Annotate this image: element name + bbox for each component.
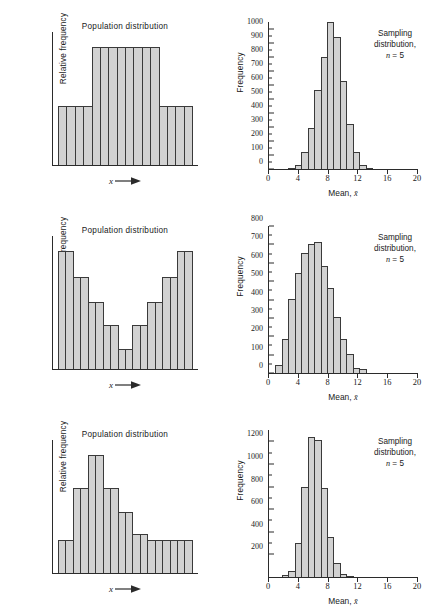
figure-row-1: Population distribution Relative frequen…: [0, 0, 441, 204]
x-tick-label: 8: [326, 374, 330, 387]
y-tick-label: 100: [251, 143, 268, 152]
x-tick-label: 20: [413, 374, 421, 387]
y-tick-mark: [269, 57, 274, 58]
right-arrow-icon: [115, 381, 141, 389]
y-tick-minor: [269, 290, 272, 291]
y-tick-mark: [269, 113, 274, 114]
population-panel-2: Population distribution Relative frequen…: [0, 204, 210, 408]
y-tick-label: 500: [251, 87, 268, 96]
y-tick-minor: [269, 235, 272, 236]
y-tick-minor: [269, 520, 272, 521]
annotation-line-2: distribution,: [362, 39, 428, 50]
y-tick-mark: [269, 155, 274, 156]
x-bar-symbol: x̄: [354, 393, 358, 402]
y-tick-mark: [269, 463, 274, 464]
y-tick-mark: [269, 262, 274, 263]
y-tick-mark: [269, 317, 274, 318]
sampling-panel-1: Frequency 0 100 200 300 400 500 600 700 …: [210, 0, 441, 204]
sampling-x-axis-label: Mean, x̄: [268, 392, 418, 402]
y-tick-label: 1000: [247, 451, 268, 460]
x-tick-label: 16: [383, 170, 391, 183]
population-x-symbol: x: [109, 584, 113, 594]
y-tick-label: 900: [251, 31, 268, 40]
y-tick-mark: [269, 441, 274, 442]
figure-row-3: Population distribution Relative frequen…: [0, 408, 441, 612]
sampling-x-axis: [268, 169, 418, 170]
y-tick-label: 200: [251, 129, 268, 138]
population-bars: [58, 455, 192, 573]
y-tick-label: 1200: [247, 429, 268, 438]
y-tick-label: 0: [259, 361, 268, 370]
population-y-axis: [52, 440, 53, 574]
sampling-x-axis-label: Mean, x̄: [268, 596, 418, 606]
y-tick-mark: [269, 336, 274, 337]
y-tick-mark: [269, 141, 274, 142]
sampling-x-axis: [268, 577, 418, 578]
annotation-line-1: Sampling: [362, 232, 428, 243]
y-tick-label: 300: [251, 305, 268, 314]
y-tick-label: 100: [251, 342, 268, 351]
population-x-symbol: x: [109, 176, 113, 186]
x-tick-label: 12: [353, 170, 361, 183]
annotation-line-3: n = 5: [362, 50, 428, 61]
sampling-panel-2: Frequency 0 100 200 300 400 500 600 700 …: [210, 204, 441, 408]
right-arrow-icon: [115, 585, 141, 593]
x-tick-label: 20: [413, 170, 421, 183]
y-tick-minor: [269, 543, 272, 544]
y-tick-minor: [269, 308, 272, 309]
y-tick-mark: [269, 281, 274, 282]
x-tick-label: 16: [383, 374, 391, 387]
annotation-line-3: n = 5: [362, 458, 428, 469]
sampling-chart-1: Frequency 0 100 200 300 400 500 600 700 …: [224, 16, 430, 194]
right-arrow-icon: [115, 177, 141, 185]
y-tick-label: 400: [251, 287, 268, 296]
population-bars: [58, 251, 192, 369]
y-tick-label: 0: [259, 157, 268, 166]
y-tick-mark: [269, 354, 274, 355]
population-x-axis-label: x: [52, 176, 198, 186]
sample-size-symbol: n: [386, 255, 390, 264]
y-tick-label: 400: [251, 519, 268, 528]
y-tick-label: 500: [251, 269, 268, 278]
y-tick-mark: [269, 226, 274, 227]
y-tick-mark: [269, 85, 274, 86]
population-title: Population distribution: [52, 430, 198, 439]
y-tick-minor: [269, 345, 272, 346]
sampling-annotation: Sampling distribution, n = 5: [362, 232, 428, 265]
y-tick-label: 600: [251, 250, 268, 259]
x-bar-symbol: x̄: [354, 597, 358, 606]
population-chart-3: Population distribution Relative frequen…: [52, 432, 198, 582]
y-tick-mark: [269, 127, 274, 128]
sampling-annotation: Sampling distribution, n = 5: [362, 436, 428, 469]
y-tick-label: 700: [251, 232, 268, 241]
y-tick-mark: [269, 43, 274, 44]
y-tick-minor: [269, 64, 272, 65]
sample-size-symbol: n: [386, 51, 390, 60]
sampling-y-axis-label: Frequency: [236, 237, 245, 317]
sampling-x-axis-label: Mean, x̄: [268, 188, 418, 198]
y-tick-label: 200: [251, 324, 268, 333]
population-panel-1: Population distribution Relative frequen…: [0, 0, 210, 204]
annotation-line-2: distribution,: [362, 243, 428, 254]
y-tick-label: 300: [251, 115, 268, 124]
annotation-line-1: Sampling: [362, 28, 428, 39]
x-tick-label: 4: [296, 578, 300, 591]
y-tick-label: 800: [251, 45, 268, 54]
x-tick-label: 20: [413, 578, 421, 591]
population-x-axis: [52, 369, 198, 370]
x-tick-label: 12: [353, 374, 361, 387]
sampling-bar: [346, 576, 353, 577]
y-tick-label: 800: [251, 214, 268, 223]
population-bar: [184, 540, 192, 573]
y-tick-minor: [269, 271, 272, 272]
y-tick-label: 600: [251, 73, 268, 82]
population-panel-3: Population distribution Relative frequen…: [0, 408, 210, 612]
sampling-bar: [359, 369, 366, 373]
figure-row-2: Population distribution Relative frequen…: [0, 204, 441, 408]
y-tick-minor: [269, 50, 272, 51]
y-tick-minor: [269, 363, 272, 364]
sampling-chart-3: Frequency 200 400 600 800 1000 1200 0 4 …: [224, 424, 430, 602]
y-tick-mark: [269, 486, 274, 487]
population-title: Population distribution: [52, 226, 198, 235]
x-tick-label: 8: [326, 170, 330, 183]
